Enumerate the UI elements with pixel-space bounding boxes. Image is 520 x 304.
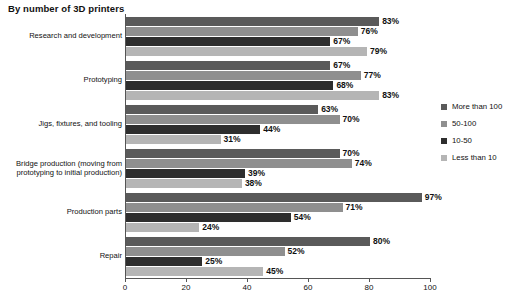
- bar[interactable]: [126, 159, 352, 168]
- bar[interactable]: [126, 37, 330, 46]
- bar-row: 70%: [126, 115, 431, 124]
- bar-value-label: 68%: [336, 80, 353, 90]
- bar[interactable]: [126, 237, 370, 246]
- chart-legend: More than 10050-10010-50Less than 10: [441, 98, 517, 166]
- bar-row: 63%: [126, 105, 431, 114]
- x-tick-label: 100: [423, 283, 436, 292]
- bar-row: 76%: [126, 27, 431, 36]
- bar[interactable]: [126, 169, 245, 178]
- bar-value-label: 67%: [333, 36, 350, 46]
- category-label: Production parts: [0, 190, 122, 234]
- bar[interactable]: [126, 125, 260, 134]
- bar-value-label: 76%: [361, 26, 378, 36]
- bar[interactable]: [126, 47, 367, 56]
- bar[interactable]: [126, 105, 318, 114]
- bar-row: 77%: [126, 71, 431, 80]
- bar-value-label: 70%: [343, 114, 360, 124]
- bar-row: 83%: [126, 91, 431, 100]
- legend-label: More than 100: [452, 102, 502, 111]
- bar-value-label: 83%: [382, 16, 399, 26]
- bar-row: 97%: [126, 193, 431, 202]
- bar-row: 24%: [126, 223, 431, 232]
- bar-row: 70%: [126, 149, 431, 158]
- bar[interactable]: [126, 247, 285, 256]
- bar[interactable]: [126, 213, 291, 222]
- x-tick-mark: [186, 278, 187, 282]
- bar[interactable]: [126, 71, 361, 80]
- bar[interactable]: [126, 135, 221, 144]
- bar-row: 44%: [126, 125, 431, 134]
- x-tick-mark: [308, 278, 309, 282]
- plot-area: 83%76%67%79%67%77%68%83%63%70%44%31%70%7…: [125, 14, 431, 278]
- legend-label: 50-100: [452, 119, 476, 128]
- legend-swatch-icon: [441, 138, 447, 144]
- bar[interactable]: [126, 267, 263, 276]
- bar-row: 45%: [126, 267, 431, 276]
- bar-row: 67%: [126, 37, 431, 46]
- bar-value-label: 79%: [370, 46, 387, 56]
- bar-group: 83%76%67%79%: [126, 17, 431, 57]
- bar-value-label: 31%: [224, 134, 241, 144]
- bar[interactable]: [126, 27, 358, 36]
- category-label: Jigs, fixtures, and tooling: [0, 102, 122, 146]
- bar-value-label: 97%: [425, 192, 442, 202]
- bar-value-label: 45%: [266, 266, 283, 276]
- legend-item[interactable]: Less than 10: [441, 149, 517, 166]
- bar-row: 83%: [126, 17, 431, 26]
- bar-row: 67%: [126, 61, 431, 70]
- bar-row: 38%: [126, 179, 431, 188]
- bar-value-label: 80%: [373, 236, 390, 246]
- bar-value-label: 38%: [245, 178, 262, 188]
- bar[interactable]: [126, 81, 333, 90]
- legend-label: 10-50: [452, 136, 472, 145]
- bar[interactable]: [126, 179, 242, 188]
- bar[interactable]: [126, 17, 379, 26]
- bar-row: 54%: [126, 213, 431, 222]
- bar-row: 74%: [126, 159, 431, 168]
- bar-value-label: 83%: [382, 90, 399, 100]
- legend-item[interactable]: 10-50: [441, 132, 517, 149]
- bar-value-label: 54%: [294, 212, 311, 222]
- bar-group: 67%77%68%83%: [126, 61, 431, 101]
- bar-value-label: 25%: [205, 256, 222, 266]
- bar-value-label: 77%: [364, 70, 381, 80]
- bar-value-label: 71%: [346, 202, 363, 212]
- chart-title: By number of 3D printers: [8, 3, 124, 14]
- bar-value-label: 44%: [263, 124, 280, 134]
- bar-value-label: 63%: [321, 104, 338, 114]
- bar[interactable]: [126, 149, 340, 158]
- x-tick-mark: [125, 278, 126, 282]
- x-tick-label: 20: [182, 283, 191, 292]
- bar[interactable]: [126, 193, 422, 202]
- bar[interactable]: [126, 115, 340, 124]
- bar[interactable]: [126, 203, 343, 212]
- bar-row: 25%: [126, 257, 431, 266]
- bar-value-label: 70%: [343, 148, 360, 158]
- bar[interactable]: [126, 61, 330, 70]
- x-tick-label: 0: [123, 283, 127, 292]
- x-tick-label: 80: [365, 283, 374, 292]
- x-axis: 020406080100: [125, 278, 431, 300]
- legend-swatch-icon: [441, 104, 447, 110]
- bar[interactable]: [126, 257, 202, 266]
- bar[interactable]: [126, 223, 199, 232]
- bar[interactable]: [126, 91, 379, 100]
- bar-row: 39%: [126, 169, 431, 178]
- bar-group: 70%74%39%38%: [126, 149, 431, 189]
- legend-item[interactable]: 50-100: [441, 115, 517, 132]
- x-tick-label: 40: [243, 283, 252, 292]
- bar-row: 52%: [126, 247, 431, 256]
- bar-row: 71%: [126, 203, 431, 212]
- category-label: Repair: [0, 234, 122, 278]
- bar-group: 63%70%44%31%: [126, 105, 431, 145]
- bar-value-label: 74%: [355, 158, 372, 168]
- category-label: Research and development: [0, 14, 122, 58]
- legend-item[interactable]: More than 100: [441, 98, 517, 115]
- x-tick-mark: [430, 278, 431, 282]
- bar-row: 68%: [126, 81, 431, 90]
- bar-value-label: 52%: [288, 246, 305, 256]
- x-tick-label: 60: [304, 283, 313, 292]
- chart-container: By number of 3D printers Research and de…: [0, 0, 520, 304]
- bar-row: 79%: [126, 47, 431, 56]
- x-tick-mark: [369, 278, 370, 282]
